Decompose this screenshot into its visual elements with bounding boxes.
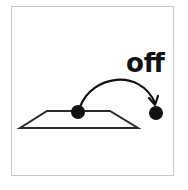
ball-end-icon: [149, 106, 163, 120]
motion-arc: [80, 80, 155, 107]
symbol-word: off: [126, 48, 166, 78]
ball-start-icon: [71, 105, 85, 119]
off-pictogram: off: [0, 0, 188, 190]
